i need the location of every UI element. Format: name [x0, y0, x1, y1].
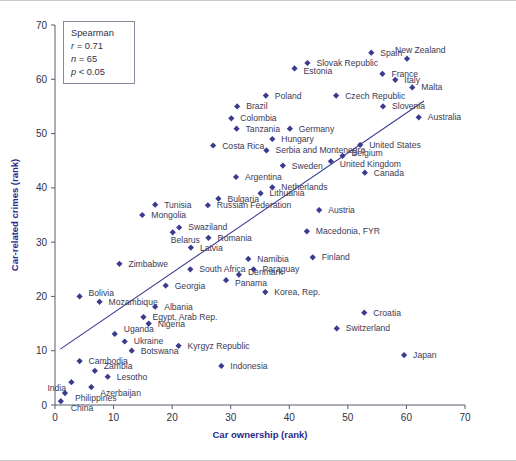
- data-point-marker: [116, 261, 122, 267]
- x-tick-label: 50: [342, 412, 354, 423]
- data-point-label: Netherlands: [281, 182, 327, 192]
- data-point-marker: [210, 142, 216, 148]
- data-point[interactable]: Czech Republic: [333, 91, 406, 101]
- data-point-label: Canada: [374, 168, 404, 178]
- data-point-marker: [58, 398, 64, 404]
- data-point[interactable]: Australia: [416, 112, 462, 122]
- data-point-label: Bolivia: [89, 288, 115, 298]
- x-tick-label: 30: [225, 412, 237, 423]
- data-point-label: Indonesia: [230, 361, 267, 371]
- data-point[interactable]: Korea, Rep.: [262, 287, 320, 297]
- data-point[interactable]: Slovak Republic: [304, 58, 378, 68]
- data-point[interactable]: Panama: [223, 277, 267, 288]
- data-point-label: Zimbabwe: [128, 259, 168, 269]
- data-point-label: Argentina: [245, 172, 282, 182]
- data-point[interactable]: Namibia: [245, 254, 289, 264]
- data-point[interactable]: India: [47, 379, 74, 393]
- data-point[interactable]: Macedonia, FYR: [304, 226, 380, 236]
- data-point[interactable]: Albania: [152, 302, 193, 312]
- data-point-marker: [334, 325, 340, 331]
- data-point-marker: [223, 277, 229, 283]
- data-point-marker: [361, 310, 367, 316]
- data-point[interactable]: Austria: [316, 205, 355, 215]
- data-point[interactable]: Croatia: [361, 308, 401, 318]
- data-point-label: Romania: [217, 233, 252, 243]
- data-point-label: Hungary: [281, 134, 314, 144]
- data-point-label: Slovak Republic: [316, 58, 378, 68]
- data-point-label: Korea, Rep.: [274, 287, 320, 297]
- data-point[interactable]: Finland: [310, 252, 351, 262]
- data-point-label: Swaziland: [188, 222, 227, 232]
- data-point-marker: [401, 352, 407, 358]
- data-point[interactable]: Ukraine: [122, 336, 164, 346]
- data-point-marker: [304, 228, 310, 234]
- x-tick-label: 60: [401, 412, 413, 423]
- data-point-label: Belarus: [171, 235, 200, 245]
- data-point[interactable]: New Zealand: [395, 45, 446, 62]
- data-point-label: Czech Republic: [345, 91, 406, 101]
- data-point-marker: [333, 92, 339, 98]
- x-tick-label: 70: [459, 412, 471, 423]
- data-point-marker: [404, 56, 410, 62]
- data-point[interactable]: Serbia and Montenegro: [263, 145, 365, 155]
- data-point[interactable]: Kyrgyz Republic: [175, 341, 250, 351]
- data-point[interactable]: Lesotho: [105, 372, 148, 382]
- data-point[interactable]: Tunisia: [152, 200, 192, 210]
- data-point[interactable]: Switzerland: [334, 323, 391, 333]
- data-point[interactable]: Slovenia: [380, 101, 425, 111]
- data-point-marker: [68, 379, 74, 385]
- data-point-label: Switzerland: [346, 323, 391, 333]
- data-point-label: Austria: [328, 205, 355, 215]
- data-point[interactable]: Georgia: [163, 281, 206, 291]
- y-tick-label: 70: [36, 20, 48, 31]
- data-point[interactable]: Germany: [287, 124, 335, 134]
- data-point[interactable]: Sweden: [280, 161, 323, 171]
- data-point-marker: [122, 338, 128, 344]
- data-point[interactable]: Costa Rica: [210, 141, 264, 151]
- data-point[interactable]: Swaziland: [176, 222, 227, 232]
- data-point-label: China: [71, 403, 94, 413]
- data-point-label: Egypt, Arab Rep.: [152, 312, 217, 322]
- data-point[interactable]: Botswana: [129, 346, 179, 356]
- data-point-label: Cambodia: [89, 356, 128, 366]
- data-point[interactable]: Argentina: [233, 172, 282, 182]
- data-point[interactable]: Brazil: [234, 101, 268, 111]
- data-point-marker: [269, 136, 275, 142]
- y-tick-label: 20: [36, 291, 48, 302]
- legend-n-value: n = 65: [71, 53, 134, 66]
- data-point[interactable]: Hungary: [269, 134, 314, 144]
- data-point[interactable]: Colombia: [228, 113, 277, 123]
- data-point[interactable]: Zimbabwe: [116, 259, 168, 269]
- y-tick-label: 30: [36, 237, 48, 248]
- x-tick-label: 20: [167, 412, 179, 423]
- data-point[interactable]: Poland: [263, 91, 302, 101]
- data-point-label: Kyrgyz Republic: [188, 341, 251, 351]
- data-point[interactable]: Mongolia: [139, 210, 186, 220]
- legend-p-symbol: p: [71, 67, 76, 77]
- data-point[interactable]: Tanzania: [233, 124, 280, 134]
- data-point-marker: [291, 65, 297, 71]
- data-point[interactable]: Japan: [401, 350, 437, 360]
- data-point-marker: [245, 256, 251, 262]
- data-point[interactable]: South Africa: [187, 264, 246, 274]
- data-point[interactable]: Egypt, Arab Rep.: [140, 312, 217, 322]
- data-point-marker: [205, 202, 211, 208]
- data-point-marker: [139, 212, 145, 218]
- data-point-label: Azerbaijan: [100, 388, 141, 398]
- legend-p-value: p < 0.05: [71, 66, 134, 79]
- data-point-label: United States: [369, 140, 421, 150]
- x-tick-label: 0: [52, 412, 58, 423]
- data-point-marker: [234, 103, 240, 109]
- data-point[interactable]: Indonesia: [218, 361, 268, 371]
- data-point-label: Finland: [322, 252, 350, 262]
- data-point[interactable]: Uganda: [112, 324, 154, 337]
- data-point[interactable]: Cambodia: [77, 356, 128, 366]
- regression-line: [60, 101, 424, 349]
- data-point-marker: [176, 224, 182, 230]
- data-point[interactable]: Romania: [205, 233, 252, 243]
- data-point-marker: [112, 331, 118, 337]
- data-point[interactable]: Bolivia: [77, 288, 115, 299]
- y-tick-label: 0: [41, 400, 47, 411]
- data-point-label: Slovenia: [392, 101, 425, 111]
- data-point-label: South Africa: [199, 264, 246, 274]
